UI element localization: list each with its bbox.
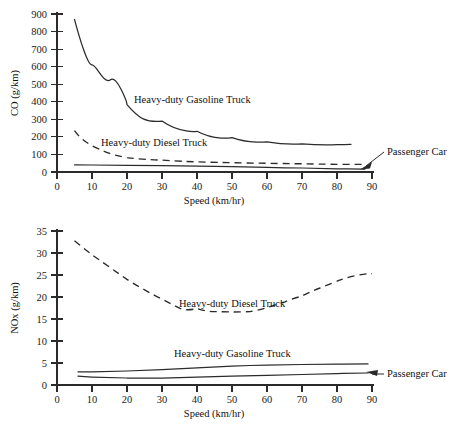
co-ytick-400: 400 bbox=[31, 96, 47, 107]
nox-xtick-80: 80 bbox=[332, 394, 343, 405]
nox-xtick-10: 10 bbox=[87, 394, 98, 405]
co-ytick-100: 100 bbox=[31, 149, 47, 160]
co-ytick-600: 600 bbox=[31, 61, 47, 72]
co-x-axis-title: Speed (km/hr) bbox=[184, 195, 245, 207]
nox-ytick-20: 20 bbox=[37, 292, 48, 303]
nox-xtick-50: 50 bbox=[227, 394, 238, 405]
co-ytick-800: 800 bbox=[31, 26, 47, 37]
nox-ytick-10: 10 bbox=[37, 336, 48, 347]
nox-label-passenger-car: Passenger Car bbox=[387, 368, 447, 379]
nox-curve-passenger-car bbox=[78, 373, 368, 378]
co-curve-passenger-car bbox=[75, 165, 366, 169]
nox-ytick-0: 0 bbox=[42, 380, 47, 391]
co-xtick-10: 10 bbox=[87, 181, 98, 192]
co-label-passenger-car: Passenger Car bbox=[387, 146, 447, 157]
nox-xtick-20: 20 bbox=[122, 394, 133, 405]
co-label-diesel-truck: Heavy-duty Diesel Truck bbox=[101, 137, 208, 148]
nox-ytick-35: 35 bbox=[37, 226, 48, 237]
co-ytick-200: 200 bbox=[31, 131, 47, 142]
chart-panel-co: 900 800 700 600 500 400 300 200 100 0 bbox=[0, 0, 460, 215]
nox-ytick-25: 25 bbox=[37, 270, 48, 281]
nox-label-diesel-truck: Heavy-duty Diesel Truck bbox=[179, 298, 286, 309]
co-xtick-90: 90 bbox=[367, 181, 378, 192]
co-ytick-0: 0 bbox=[42, 167, 47, 178]
chart-panel-nox: 35 30 25 20 15 10 5 0 0 10 bbox=[0, 215, 460, 430]
co-chart-svg: 900 800 700 600 500 400 300 200 100 0 bbox=[0, 0, 460, 215]
co-curve-gasoline-truck bbox=[75, 19, 352, 144]
co-xtick-0: 0 bbox=[54, 181, 59, 192]
nox-xtick-70: 70 bbox=[297, 394, 308, 405]
nox-x-axis-title: Speed (km/hr) bbox=[184, 408, 245, 420]
co-passenger-car-arrowhead bbox=[360, 162, 372, 170]
nox-ytick-15: 15 bbox=[37, 314, 48, 325]
co-ytick-500: 500 bbox=[31, 79, 47, 90]
co-label-gasoline-truck: Heavy-duty Gasoline Truck bbox=[134, 94, 251, 105]
nox-curve-gasoline-truck bbox=[78, 364, 368, 372]
nox-xtick-90: 90 bbox=[367, 394, 378, 405]
co-ytick-300: 300 bbox=[31, 114, 47, 125]
co-ytick-700: 700 bbox=[31, 44, 47, 55]
emissions-figure: 900 800 700 600 500 400 300 200 100 0 bbox=[0, 0, 460, 430]
co-xtick-80: 80 bbox=[332, 181, 343, 192]
nox-label-gasoline-truck: Heavy-duty Gasoline Truck bbox=[174, 348, 291, 359]
co-ytick-900: 900 bbox=[31, 9, 47, 20]
co-xtick-70: 70 bbox=[297, 181, 308, 192]
nox-y-axis-title: NOx (g/km) bbox=[9, 282, 21, 334]
co-passenger-car-leader bbox=[366, 152, 384, 166]
co-xtick-20: 20 bbox=[122, 181, 133, 192]
co-xtick-50: 50 bbox=[227, 181, 238, 192]
nox-ytick-5: 5 bbox=[42, 358, 47, 369]
nox-xtick-0: 0 bbox=[54, 394, 59, 405]
co-xtick-30: 30 bbox=[157, 181, 168, 192]
co-x-ticks bbox=[57, 172, 372, 179]
nox-xtick-30: 30 bbox=[157, 394, 168, 405]
co-xtick-40: 40 bbox=[192, 181, 203, 192]
co-y-axis-title: CO (g/km) bbox=[9, 70, 21, 116]
nox-chart-svg: 35 30 25 20 15 10 5 0 0 10 bbox=[0, 215, 460, 430]
nox-xtick-60: 60 bbox=[262, 394, 273, 405]
nox-ytick-30: 30 bbox=[37, 248, 48, 259]
nox-x-ticks bbox=[57, 385, 372, 392]
nox-xtick-40: 40 bbox=[192, 394, 203, 405]
co-xtick-60: 60 bbox=[262, 181, 273, 192]
